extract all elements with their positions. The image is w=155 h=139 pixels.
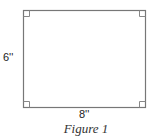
- right-angle-marker-top-left-icon: [24, 11, 30, 17]
- rectangle-diagram: [0, 0, 155, 139]
- right-angle-marker-bottom-right-icon: [140, 102, 146, 108]
- rectangle-outline: [24, 11, 146, 108]
- height-dimension-label: 6'': [3, 52, 13, 63]
- right-angle-marker-bottom-left-icon: [24, 102, 30, 108]
- rectangle-figure: [0, 0, 155, 139]
- right-angle-marker-top-right-icon: [140, 11, 146, 17]
- figure-caption: Figure 1: [0, 122, 155, 135]
- width-dimension-label: 8'': [79, 109, 89, 120]
